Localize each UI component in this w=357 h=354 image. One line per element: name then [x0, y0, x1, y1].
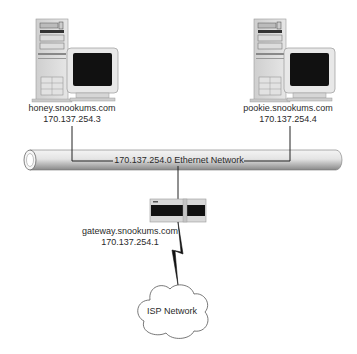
host-name: pookie.snookums.com [238, 103, 338, 114]
desktop-computer-icon [250, 19, 335, 102]
host-label-pookie: pookie.snookums.com 170.137.254.4 [238, 103, 338, 125]
desktop-computer-icon [32, 19, 118, 102]
gateway-name: gateway.snookums.com [80, 226, 180, 237]
gateway-label: gateway.snookums.com 170.137.254.1 [80, 226, 180, 248]
host-name: honey.snookums.com [22, 103, 122, 114]
network-diagram [0, 0, 357, 354]
isp-label: ISP Network [142, 306, 202, 317]
host-ip: 170.137.254.3 [22, 114, 122, 125]
router-icon [150, 199, 206, 222]
host-label-honey: honey.snookums.com 170.137.254.3 [22, 103, 122, 125]
host-ip: 170.137.254.4 [238, 114, 338, 125]
network-label: 170.137.254.0 Ethernet Network [110, 155, 248, 166]
gateway-ip: 170.137.254.1 [80, 237, 180, 248]
